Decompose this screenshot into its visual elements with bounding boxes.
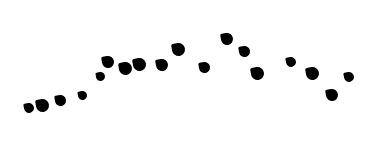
drop-shape-icon xyxy=(285,56,297,68)
drop-shape-icon xyxy=(304,65,319,80)
drop-shape-icon xyxy=(77,90,87,100)
drop-shape-icon xyxy=(131,56,146,71)
drop-shape-icon xyxy=(101,55,115,69)
drop-shape-icon xyxy=(170,41,185,56)
drop-shape-icon xyxy=(343,71,355,83)
drop-shape-icon xyxy=(95,71,105,81)
drop-shape-icon xyxy=(54,94,67,107)
drop-shape-icon xyxy=(325,88,339,102)
drop-shape-icon xyxy=(23,102,35,114)
drop-shape-icon xyxy=(117,60,132,75)
drop-pattern-canvas xyxy=(0,0,384,165)
drop-shape-icon xyxy=(155,58,169,72)
drop-shape-icon xyxy=(238,45,251,58)
drop-shape-icon xyxy=(198,61,211,74)
drop-shape-icon xyxy=(34,97,49,112)
drop-shape-icon xyxy=(249,65,264,80)
drop-shape-icon xyxy=(220,32,234,46)
